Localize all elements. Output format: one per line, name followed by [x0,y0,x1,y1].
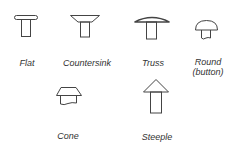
truss-rivet-figure: Truss [130,0,180,75]
cone-label: Cone [54,131,82,141]
countersink-rivet-figure: Countersink [56,0,118,75]
round-label: Round [190,57,226,67]
round-sublabel: (button) [188,67,228,77]
steeple-label: Steeple [140,132,174,142]
flat-label: Flat [15,58,39,68]
cone-rivet-figure: Cone [50,78,100,148]
steeple-rivet-figure: Steeple [140,75,190,148]
countersink-rivet-icon [70,15,100,45]
countersink-label: Countersink [56,58,118,68]
flat-rivet-icon [14,15,38,45]
cone-rivet-icon [56,87,82,111]
flat-rivet-figure: Flat [0,0,60,75]
steeple-rivet-icon [143,79,169,115]
round-rivet-figure: Round (button) [188,0,238,80]
truss-rivet-icon [134,15,170,45]
round-rivet-icon [195,20,219,44]
truss-label: Truss [138,58,168,68]
